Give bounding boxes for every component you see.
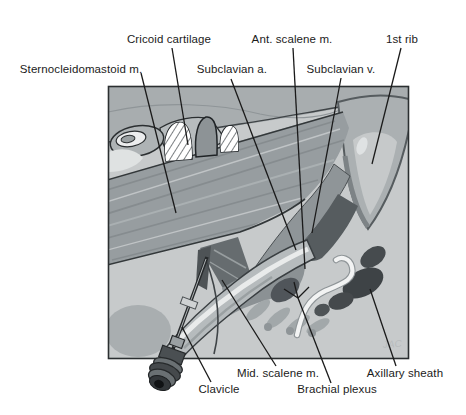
figure-interior: JAC bbox=[100, 86, 409, 360]
artist-signature: JAC bbox=[381, 338, 402, 350]
label-subclavian-vein: Subclavian v. bbox=[307, 63, 376, 76]
label-sternocleidomastoid: Sternocleidomastoid m. bbox=[20, 63, 142, 76]
label-first-rib: 1st rib bbox=[386, 33, 418, 46]
label-brachial-plexus: Brachial plexus bbox=[297, 383, 376, 396]
label-clavicle: Clavicle bbox=[198, 383, 239, 396]
label-cricoid-cartilage: Cricoid cartilage bbox=[127, 33, 211, 46]
label-subclavian-artery: Subclavian a. bbox=[197, 63, 267, 76]
anatomy-figure: JAC bbox=[0, 0, 466, 415]
label-mid-scalene: Mid. scalene m. bbox=[237, 367, 319, 380]
label-ant-scalene: Ant. scalene m. bbox=[252, 33, 333, 46]
label-axillary-sheath: Axillary sheath bbox=[367, 367, 443, 380]
